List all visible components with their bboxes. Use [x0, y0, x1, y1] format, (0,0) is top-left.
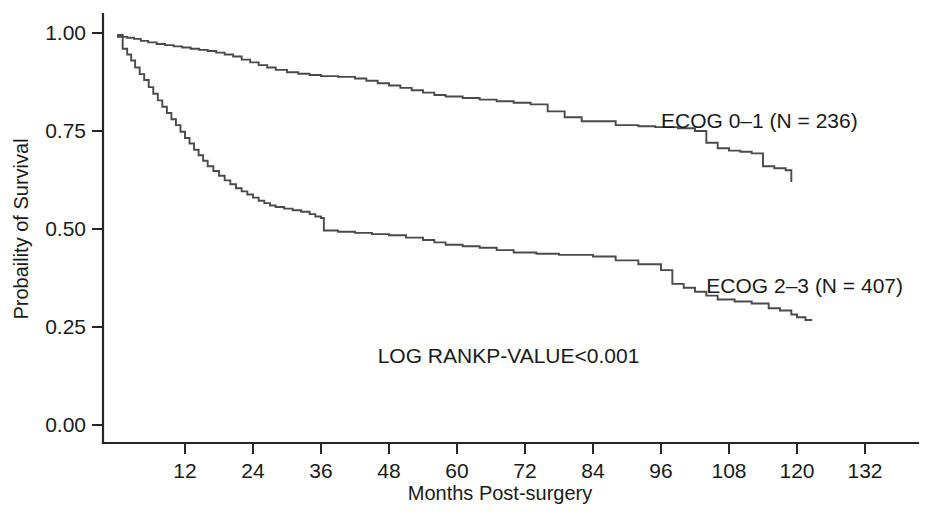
y-tick-label-0.00: 0.00	[45, 413, 86, 436]
y-tick-label-0.50: 0.50	[45, 217, 86, 240]
x-tick-label-24: 24	[241, 459, 265, 482]
x-axis-ticks: 1224364860728496108120132	[173, 443, 882, 482]
y-tick-label-0.25: 0.25	[45, 315, 86, 338]
log-rank-p-value: LOG RANKP-VALUE<0.001	[378, 344, 640, 367]
kaplan-meier-figure: 0.000.250.500.751.00 1224364860728496108…	[0, 0, 926, 513]
x-tick-label-36: 36	[309, 459, 332, 482]
x-tick-label-60: 60	[445, 459, 468, 482]
x-tick-label-108: 108	[711, 459, 746, 482]
x-tick-label-84: 84	[581, 459, 605, 482]
series-label-ecog-0-1: ECOG 0–1 (N = 236)	[661, 109, 858, 132]
x-tick-label-132: 132	[847, 459, 882, 482]
chart-annotations: LOG RANKP-VALUE<0.001	[378, 344, 640, 367]
x-tick-label-120: 120	[779, 459, 814, 482]
x-tick-label-48: 48	[377, 459, 400, 482]
y-tick-label-0.75: 0.75	[45, 119, 86, 142]
x-tick-label-12: 12	[173, 459, 196, 482]
series-labels: ECOG 0–1 (N = 236)ECOG 2–3 (N = 407)	[661, 109, 903, 297]
y-tick-label-1.00: 1.00	[45, 21, 86, 44]
plot-canvas: 0.000.250.500.751.00 1224364860728496108…	[0, 0, 926, 513]
x-tick-label-72: 72	[513, 459, 536, 482]
x-axis-title: Months Post-surgery	[408, 482, 593, 504]
series-label-ecog-2-3: ECOG 2–3 (N = 407)	[706, 274, 903, 297]
y-axis-ticks: 0.000.250.500.751.00	[45, 21, 103, 436]
x-tick-label-96: 96	[649, 459, 672, 482]
y-axis-title: Probaility of Survival	[10, 138, 32, 319]
